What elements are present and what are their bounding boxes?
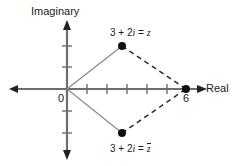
point-label-z-equals: = [138,27,144,38]
segment-zbar-to-six [122,89,186,133]
point-z-conjugate [118,129,126,137]
real-axis [9,85,207,93]
segment-origin-to-zbar [67,89,122,133]
axis-label-real: Real [206,83,229,94]
point-label-z-symbol: z [147,27,151,38]
imaginary-axis-bottom-arrowhead [63,150,71,160]
origin-label: 0 [58,93,64,104]
segment-z-to-six [122,46,186,89]
imaginary-axis-top-arrowhead [63,20,71,30]
real-axis-tick-label-six: 6 [183,93,189,104]
point-label-zbar-symbol: z [147,143,151,154]
point-label-z: 3 + 2i = z [110,28,151,38]
segment-origin-to-z [67,46,122,89]
point-label-z-conjugate: 3 + 2i = z [110,143,151,154]
point-label-zbar-imaginary-unit: i [133,143,136,154]
axis-label-imaginary: Imaginary [31,6,79,17]
point-label-z-imaginary-unit: i [133,27,136,38]
real-axis-left-arrowhead [9,85,18,93]
complex-plane-figure: Imaginary Real 0 6 3 + 2i = z 3 + 2i = z [0,0,242,166]
point-label-zbar-equals: = [138,143,144,154]
point-label-z-real: 3 + 2 [110,27,133,38]
point-z [118,42,126,50]
point-label-zbar-real: 3 + 2 [110,143,133,154]
